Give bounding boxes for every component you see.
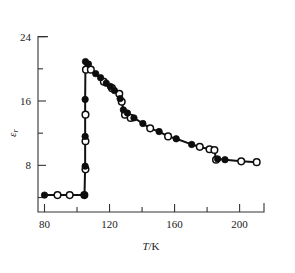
data-markers	[41, 58, 260, 198]
x-tick-label: 80	[39, 218, 51, 230]
y-tick-label: 16	[20, 95, 32, 107]
tick-marks	[38, 37, 240, 212]
data-point-open	[165, 133, 172, 140]
axis-titles: T/Kεr	[6, 129, 160, 252]
data-point-filled	[173, 136, 179, 142]
data-point-open	[82, 111, 89, 118]
chart-svg: 8162480120160200 T/Kεr	[0, 0, 295, 273]
data-point-open	[147, 125, 154, 132]
data-point-open	[54, 192, 61, 199]
data-point-filled	[82, 96, 88, 102]
x-axis-title: T/K	[142, 240, 159, 252]
data-point-filled	[117, 95, 123, 101]
data-point-open	[66, 192, 73, 199]
data-point-filled	[41, 192, 47, 198]
data-point-filled	[97, 74, 103, 80]
data-point-filled	[81, 192, 87, 198]
data-point-filled	[124, 110, 130, 116]
data-point-open	[238, 158, 245, 165]
tick-labels: 8162480120160200	[20, 31, 248, 230]
x-tick-label: 200	[231, 218, 248, 230]
axis-frame	[38, 37, 264, 212]
x-tick-label: 160	[166, 218, 183, 230]
data-point-filled	[82, 133, 88, 139]
data-point-filled	[222, 157, 228, 163]
data-point-filled	[131, 115, 137, 121]
y-tick-label: 24	[20, 31, 32, 43]
data-point-filled	[156, 128, 162, 134]
data-point-open	[211, 147, 218, 154]
chart-figure: 8162480120160200 T/Kεr	[0, 0, 295, 273]
data-point-filled	[188, 141, 194, 147]
data-point-filled	[214, 156, 220, 162]
x-tick-label: 120	[101, 218, 118, 230]
data-point-filled	[82, 163, 88, 169]
y-axis-title: εr	[6, 129, 21, 137]
data-point-filled	[111, 87, 117, 93]
data-point-filled	[140, 120, 146, 126]
data-point-open	[253, 159, 260, 166]
data-point-open	[196, 144, 203, 151]
data-point-filled	[85, 61, 91, 67]
y-tick-label: 8	[26, 159, 32, 171]
